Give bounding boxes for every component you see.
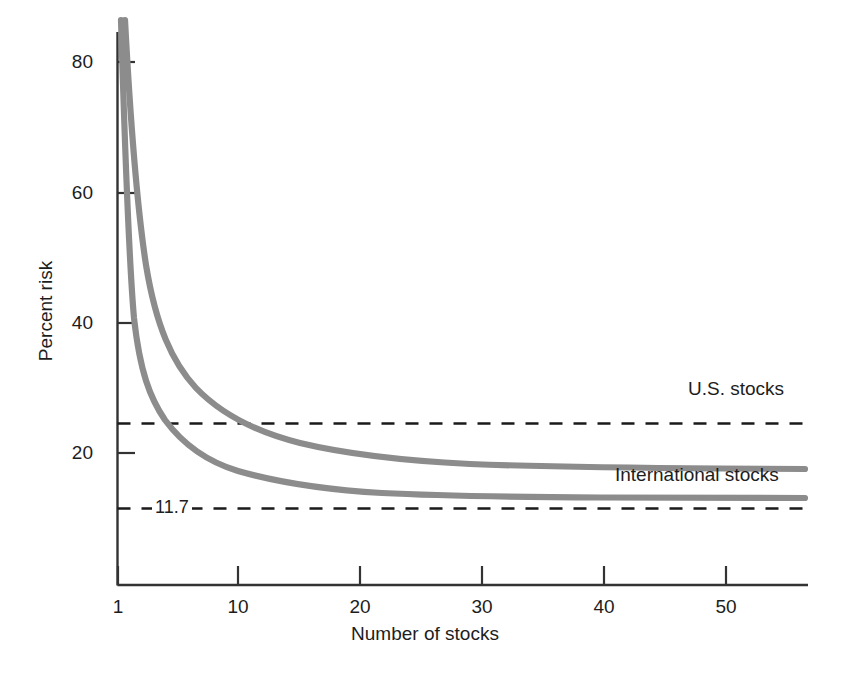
x-axis-title: Number of stocks [0, 623, 850, 645]
y-tick-label-80: 80 [47, 51, 93, 73]
y-tick-label-20: 20 [47, 442, 93, 464]
x-tick-label-40: 40 [579, 596, 629, 618]
chart-plot-area [0, 0, 850, 688]
risk-diversification-chart: 80 60 40 20 1 10 20 30 40 50 Percent ris… [0, 0, 850, 688]
x-tick-label-50: 50 [701, 596, 751, 618]
reference-value-label-11-7: 11.7 [152, 497, 192, 518]
series-line-international-stocks [125, 20, 805, 469]
x-tick-label-30: 30 [457, 596, 507, 618]
x-axis-ticks [118, 566, 726, 585]
x-tick-label-1: 1 [93, 596, 143, 618]
x-tick-label-20: 20 [335, 596, 385, 618]
series-label-international-stocks: International stocks [615, 464, 779, 486]
y-axis-title: Percent risk [35, 231, 57, 391]
series-line-us-stocks [121, 20, 805, 498]
y-tick-label-60: 60 [47, 182, 93, 204]
x-tick-label-10: 10 [213, 596, 263, 618]
series-label-us-stocks: U.S. stocks [688, 378, 784, 400]
